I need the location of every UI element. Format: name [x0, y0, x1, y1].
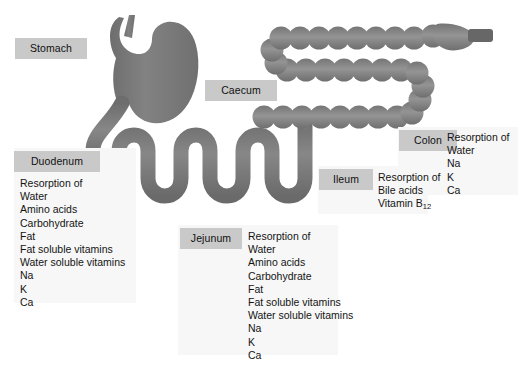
- list-item: K: [447, 171, 509, 184]
- duodenum-heading: Resorption of: [20, 177, 125, 190]
- vitamin-b-subscript: 12: [423, 202, 431, 211]
- list-item: Amino acids: [248, 256, 353, 269]
- label-jejunum-text: Jejunum: [191, 233, 231, 244]
- anal-canal: [468, 29, 493, 42]
- vitamin-b-text: Vitamin B: [378, 197, 423, 209]
- list-item-vitamin-b12: Vitamin B12: [378, 197, 440, 211]
- duodenum-resorption-list: Resorption of Water Amino acids Carbohyd…: [20, 177, 125, 309]
- list-item: Ca: [20, 296, 125, 309]
- jejunum-resorption-list: Resorption of Water Amino acids Carbohyd…: [248, 230, 353, 362]
- list-item: Fat: [248, 283, 353, 296]
- list-item: Water: [20, 190, 125, 203]
- label-duodenum-text: Duodenum: [31, 156, 83, 167]
- list-item: Ca: [447, 184, 509, 197]
- list-item: Ca: [248, 349, 353, 362]
- colon-heading: Resorption of: [447, 131, 509, 144]
- list-item: Bile acids: [378, 184, 440, 197]
- label-stomach[interactable]: Stomach: [15, 38, 87, 59]
- list-item: Water: [447, 144, 509, 157]
- list-item: Na: [20, 269, 125, 282]
- label-ileum-text: Ileum: [333, 174, 359, 185]
- list-item: Water soluble vitamins: [20, 256, 125, 269]
- list-item: Water: [248, 243, 353, 256]
- label-ileum[interactable]: Ileum: [319, 169, 373, 190]
- ileum-heading: Resorption of: [378, 171, 440, 184]
- label-duodenum[interactable]: Duodenum: [14, 151, 100, 172]
- list-item: Carbohydrate: [20, 217, 125, 230]
- list-item: Carbohydrate: [248, 270, 353, 283]
- label-caecum-text: Caecum: [221, 85, 261, 96]
- list-item: Fat soluble vitamins: [20, 243, 125, 256]
- colon-resorption-list: Resorption of Water Na K Ca: [447, 131, 509, 197]
- label-caecum[interactable]: Caecum: [205, 80, 277, 101]
- descending-colon: [270, 25, 445, 50]
- label-jejunum[interactable]: Jejunum: [180, 228, 242, 249]
- list-item: Na: [248, 322, 353, 335]
- list-item: Na: [447, 157, 509, 170]
- list-item: K: [20, 283, 125, 296]
- label-stomach-text: Stomach: [30, 43, 72, 54]
- label-colon-text: Colon: [414, 135, 442, 146]
- jejunum-heading: Resorption of: [248, 230, 353, 243]
- list-item: Fat soluble vitamins: [248, 296, 353, 309]
- list-item: Water soluble vitamins: [248, 309, 353, 322]
- list-item: Fat: [20, 230, 125, 243]
- digestive-tract-diagram: Stomach Caecum Duodenum Resorption of Wa…: [0, 0, 525, 371]
- ileum-resorption-list: Resorption of Bile acids Vitamin B12: [378, 171, 440, 212]
- list-item: K: [248, 336, 353, 349]
- list-item: Amino acids: [20, 203, 125, 216]
- caecum-and-ascending-colon: [253, 75, 435, 129]
- oesophagus: [124, 15, 135, 38]
- small-intestine-loops: [119, 120, 305, 196]
